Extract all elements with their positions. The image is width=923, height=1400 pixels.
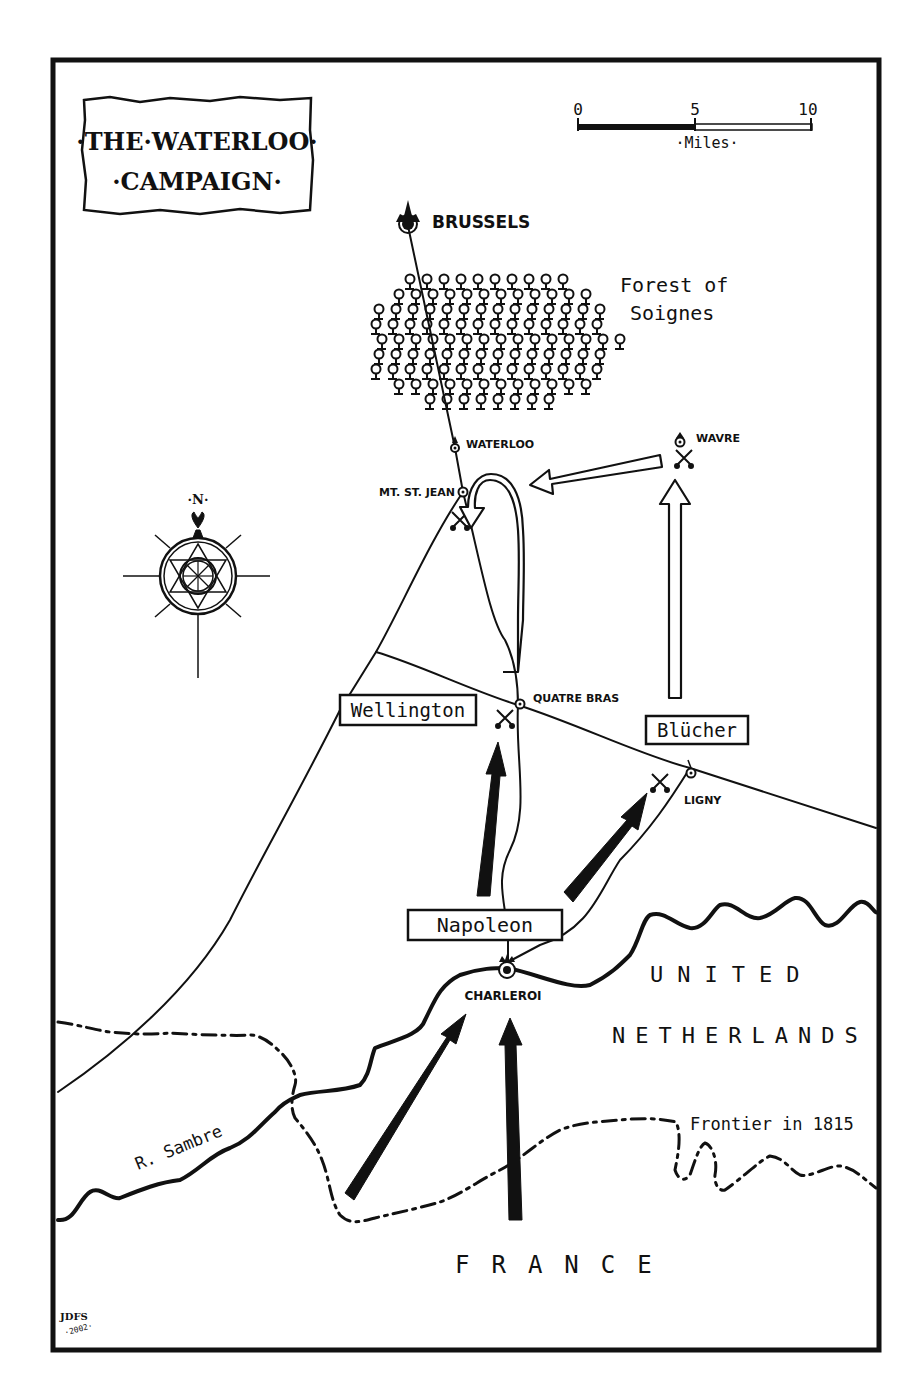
tree-icon bbox=[375, 305, 384, 314]
tree-icon bbox=[531, 290, 540, 299]
tree-icon bbox=[460, 305, 469, 314]
tree-icon bbox=[576, 365, 585, 374]
signature-year: ·2002· bbox=[63, 1321, 93, 1337]
army-label-napoleon: Napoleon bbox=[408, 910, 562, 940]
tree-icon bbox=[412, 290, 421, 299]
tree-icon bbox=[491, 365, 500, 374]
tree-icon bbox=[406, 320, 415, 329]
tree-icon bbox=[582, 380, 591, 389]
tree-icon bbox=[440, 320, 449, 329]
tree-icon bbox=[525, 320, 534, 329]
tree-icon bbox=[565, 335, 574, 344]
tree-icon bbox=[446, 380, 455, 389]
tree-icon bbox=[596, 350, 605, 359]
tree-icon bbox=[508, 365, 517, 374]
tree-icon bbox=[542, 365, 551, 374]
tree-icon bbox=[508, 275, 517, 284]
brussels-label: BRUSSELS bbox=[432, 212, 530, 232]
town-waterloo: WATERLOO bbox=[451, 436, 534, 452]
charleroi-label: CHARLEROI bbox=[464, 989, 541, 1003]
tree-icon bbox=[562, 305, 571, 314]
tree-icon bbox=[491, 275, 500, 284]
tree-icon bbox=[497, 290, 506, 299]
tree-icon bbox=[409, 305, 418, 314]
compass-north-label: ·N· bbox=[188, 492, 209, 507]
arrow-napoleon-to-quatre-bras bbox=[477, 742, 506, 896]
tree-icon bbox=[548, 380, 557, 389]
tree-icon bbox=[457, 320, 466, 329]
french-advance-arrows bbox=[345, 742, 647, 1220]
tree-icon bbox=[531, 380, 540, 389]
tree-icon bbox=[616, 335, 625, 344]
tree-icon bbox=[395, 335, 404, 344]
tree-icon bbox=[477, 350, 486, 359]
tree-icon bbox=[426, 305, 435, 314]
tree-icon bbox=[494, 395, 503, 404]
tree-icon bbox=[412, 335, 421, 344]
tree-icon bbox=[426, 395, 435, 404]
signature-initials: JDFS bbox=[59, 1311, 88, 1322]
tree-icon bbox=[378, 335, 387, 344]
tree-icon bbox=[593, 365, 602, 374]
town-wavre: WAVRE bbox=[676, 432, 740, 447]
tree-icon bbox=[562, 350, 571, 359]
tree-icon bbox=[528, 395, 537, 404]
tree-icon bbox=[389, 365, 398, 374]
tree-icon bbox=[582, 290, 591, 299]
tree-icon bbox=[423, 275, 432, 284]
tree-icon bbox=[497, 380, 506, 389]
tree-icon bbox=[460, 350, 469, 359]
tree-icon bbox=[514, 335, 523, 344]
tree-icon bbox=[511, 350, 520, 359]
scale-tick-0: 0 bbox=[573, 100, 583, 119]
tree-icon bbox=[545, 395, 554, 404]
crossed-swords-icon bbox=[496, 710, 514, 728]
wellington-label: Wellington bbox=[351, 699, 465, 721]
frontier-label: Frontier in 1815 bbox=[690, 1114, 854, 1134]
tree-icon bbox=[531, 335, 540, 344]
tree-icon bbox=[480, 380, 489, 389]
tree-icon bbox=[508, 320, 517, 329]
crossed-swords-icon bbox=[675, 450, 693, 468]
artist-signature: JDFS ·2002· bbox=[59, 1311, 94, 1337]
town-quatre-bras: QUATRE BRAS bbox=[516, 692, 620, 709]
tree-icon bbox=[443, 305, 452, 314]
tree-icon bbox=[463, 380, 472, 389]
tree-icon bbox=[491, 320, 500, 329]
tree-icon bbox=[593, 320, 602, 329]
arrow-france-sw-to-charleroi bbox=[345, 1014, 466, 1200]
tree-icon bbox=[596, 305, 605, 314]
tree-icon bbox=[514, 380, 523, 389]
tree-icon bbox=[446, 290, 455, 299]
tree-icon bbox=[372, 365, 381, 374]
tree-icon bbox=[446, 335, 455, 344]
tree-icon bbox=[392, 305, 401, 314]
tree-icon bbox=[582, 335, 591, 344]
tree-icon bbox=[460, 395, 469, 404]
forest-label-line-1: Forest of bbox=[620, 273, 728, 297]
army-label-wellington: Wellington bbox=[340, 695, 476, 725]
river-sambre-label: R. Sambre bbox=[132, 1121, 225, 1174]
tree-icon bbox=[406, 275, 415, 284]
tree-icon bbox=[440, 365, 449, 374]
tree-icon bbox=[599, 335, 608, 344]
title-line-2: ·CAMPAIGN· bbox=[112, 167, 282, 196]
tree-icon bbox=[457, 365, 466, 374]
tree-icon bbox=[477, 395, 486, 404]
tree-icon bbox=[545, 350, 554, 359]
river-sambre bbox=[58, 898, 878, 1220]
tree-icon bbox=[511, 305, 520, 314]
title-cartouche: ·THE·WATERLOO· ·CAMPAIGN· bbox=[76, 97, 317, 214]
tree-icon bbox=[392, 350, 401, 359]
tree-icon bbox=[545, 305, 554, 314]
waterloo-campaign-map: ·THE·WATERLOO· ·CAMPAIGN· 0 5 10 ·Miles·… bbox=[0, 0, 923, 1400]
tree-icon bbox=[511, 395, 520, 404]
crossed-swords-icon bbox=[651, 774, 669, 792]
tree-icon bbox=[474, 275, 483, 284]
tree-icon bbox=[579, 350, 588, 359]
quatre-bras-label: QUATRE BRAS bbox=[533, 692, 619, 705]
tree-icon bbox=[409, 350, 418, 359]
allied-movement-arrows bbox=[460, 455, 690, 698]
tree-icon bbox=[559, 365, 568, 374]
arrow-prussians-to-mt-st-jean bbox=[530, 455, 662, 494]
